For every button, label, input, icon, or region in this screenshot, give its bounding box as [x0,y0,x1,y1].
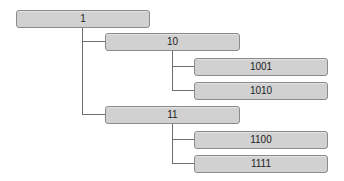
tree-node-1100: 1100 [194,131,328,149]
tree-node-1010: 1010 [194,82,328,100]
connector-10-to-1001 [172,66,194,67]
connector-10-to-1010 [172,90,194,91]
connector-11-vertical [172,123,173,164]
tree-node-1111: 1111 [194,155,328,173]
tree-node-10: 10 [105,33,240,51]
tree-node-11: 11 [105,106,240,124]
tree-node-1001: 1001 [194,58,328,76]
connector-root-to-11 [82,114,105,115]
connector-11-to-1111 [172,163,194,164]
connector-10-vertical [172,50,173,91]
connector-root-to-10 [82,41,105,42]
tree-node-1: 1 [16,10,150,28]
connector-11-to-1100 [172,139,194,140]
